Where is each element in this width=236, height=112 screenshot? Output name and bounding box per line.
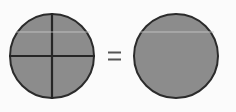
divided-circle-group <box>9 13 95 99</box>
circle-equivalence-diagram <box>0 0 236 112</box>
equals-upper-bar <box>108 52 121 54</box>
figure-root: A gray circle divided into four equal qu… <box>0 0 236 112</box>
equals-lower-bar <box>108 59 121 61</box>
whole-circle-shape <box>134 14 218 98</box>
whole-circle-group <box>134 14 218 98</box>
